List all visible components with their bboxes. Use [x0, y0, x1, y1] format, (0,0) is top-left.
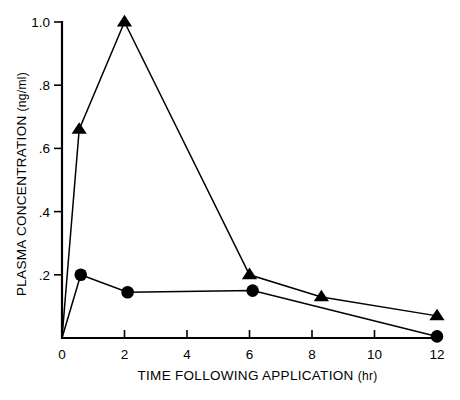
y-tick-label: .4	[39, 205, 51, 220]
x-tick-label: 6	[246, 347, 254, 362]
tick-labels: .2.4.6.81.0024681012	[31, 15, 444, 362]
data-point-circle	[121, 286, 134, 299]
x-axis-title: TIME FOLLOWING APPLICATION (hr)	[137, 368, 377, 383]
data-series	[62, 15, 445, 343]
x-tick-label: 0	[58, 347, 66, 362]
y-tick-label: 1.0	[31, 15, 50, 30]
data-point-triangle	[72, 122, 87, 134]
x-tick-label: 4	[183, 347, 191, 362]
y-tick-label: .6	[39, 141, 50, 156]
data-point-triangle	[242, 268, 257, 280]
x-tick-label: 12	[429, 347, 444, 362]
data-point-circle	[246, 284, 259, 297]
data-point-triangle	[117, 15, 132, 27]
chart-figure: .2.4.6.81.0024681012 TIME FOLLOWING APPL…	[0, 0, 460, 400]
series-circle	[62, 269, 443, 343]
y-tick-label: .8	[39, 78, 50, 93]
data-point-circle	[74, 269, 87, 282]
y-axis-title: PLASMA CONCENTRATION (ng/ml)	[14, 72, 29, 296]
x-tick-label: 10	[367, 347, 382, 362]
x-tick-label: 8	[308, 347, 316, 362]
x-tick-label: 2	[121, 347, 129, 362]
plot-area: .2.4.6.81.0024681012 TIME FOLLOWING APPL…	[0, 0, 460, 400]
y-tick-label: .2	[39, 268, 50, 283]
data-point-circle	[431, 330, 444, 343]
axis-titles: TIME FOLLOWING APPLICATION (hr)PLASMA CO…	[14, 72, 378, 383]
